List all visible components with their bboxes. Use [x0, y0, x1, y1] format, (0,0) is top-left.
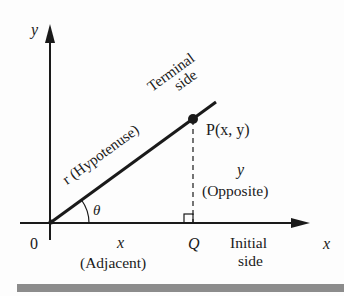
- trig-right-triangle-diagram: y x 0 Terminal side r (Hypotenuse) θ P(x…: [0, 0, 344, 296]
- x-axis-label: x: [322, 235, 330, 252]
- adjacent-label: (Adjacent): [80, 254, 146, 272]
- right-angle-marker: [184, 214, 193, 223]
- initial-side-label-line1: Initial: [230, 234, 267, 251]
- svg-text:r (Hypotenuse): r (Hypotenuse): [59, 121, 142, 188]
- adjacent-var-label: x: [116, 234, 124, 251]
- hypotenuse-label: r (Hypotenuse): [59, 121, 142, 188]
- origin-dot: [49, 220, 54, 225]
- initial-side-label-line2: side: [238, 252, 263, 269]
- y-axis-arrow-icon: [45, 24, 55, 43]
- angle-theta-label: θ: [93, 202, 101, 218]
- opposite-var-label: y: [235, 161, 245, 179]
- bottom-divider-bar: [17, 284, 344, 292]
- point-q-label: Q: [188, 235, 200, 252]
- terminal-side-label: Terminal side: [144, 50, 206, 107]
- y-axis-label: y: [29, 21, 39, 39]
- point-p-label: P(x, y): [206, 121, 250, 139]
- point-p-dot: [188, 114, 198, 124]
- diagram-svg: y x 0 Terminal side r (Hypotenuse) θ P(x…: [0, 0, 344, 296]
- angle-arc: [82, 200, 90, 223]
- origin-label: 0: [30, 235, 38, 252]
- opposite-label: (Opposite): [202, 182, 268, 200]
- x-axis-arrow-icon: [291, 218, 310, 228]
